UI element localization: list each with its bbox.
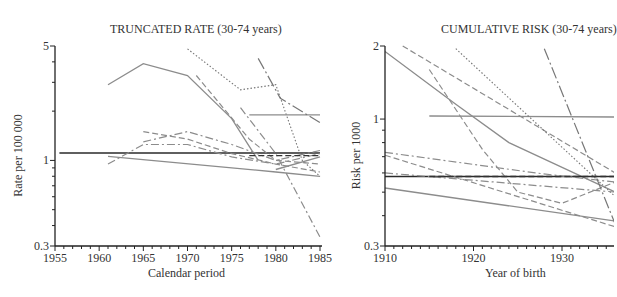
x-tick-label: 1920 — [462, 251, 486, 265]
x-tick-label: 1955 — [43, 251, 67, 265]
series-line-r8 — [385, 152, 614, 182]
y-tick-label: 2 — [373, 39, 379, 53]
x-tick-label: 1975 — [220, 251, 244, 265]
x-tick-label: 1970 — [176, 251, 200, 265]
x-tick-label: 1960 — [87, 251, 111, 265]
series-line-r1 — [385, 51, 614, 192]
right-chart: 0.312191019201930 — [364, 39, 614, 265]
series-line-s5 — [143, 132, 320, 161]
series-line-r7 — [456, 49, 614, 197]
series-line-s1 — [108, 64, 258, 161]
series-group — [59, 49, 320, 237]
series-line-s7 — [188, 49, 321, 176]
series-line-r5 — [403, 46, 614, 173]
x-tick-label: 1910 — [373, 251, 397, 265]
y-tick-label: 1 — [43, 153, 49, 167]
left-chart: 0.3151955196019651970197519801985 — [34, 39, 332, 265]
series-line-r10 — [385, 155, 614, 227]
x-tick-label: 1980 — [264, 251, 288, 265]
x-tick-label: 1985 — [308, 251, 332, 265]
series-group — [385, 46, 614, 227]
y-tick-label: 5 — [43, 39, 49, 53]
series-line-s8 — [196, 76, 320, 165]
series-line-r6 — [429, 70, 614, 204]
y-tick-label: 1 — [373, 112, 379, 126]
series-line-s6 — [143, 132, 320, 172]
x-tick-label: 1965 — [131, 251, 155, 265]
series-line-s10 — [258, 58, 320, 122]
x-tick-label: 1930 — [550, 251, 574, 265]
